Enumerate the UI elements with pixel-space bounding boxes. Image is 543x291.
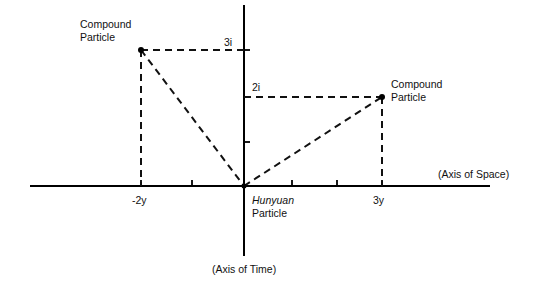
vector-line (141, 50, 244, 186)
left-particle-label-1: Compound (80, 18, 132, 30)
left-compound-particle-point (138, 47, 144, 53)
right-particle-label-2: Particle (391, 91, 426, 103)
right-particle-label-1: Compound (391, 78, 443, 90)
spacetime-diagram: Compound Particle Compound Particle 3i 2… (0, 0, 543, 291)
x-tick-label-3y: 3y (373, 194, 385, 206)
right-compound-particle-point (379, 94, 385, 100)
vector-line (244, 97, 382, 186)
y-tick-label-2i: 2i (252, 81, 260, 93)
space-axis-label: (Axis of Space) (438, 168, 509, 180)
time-axis-label: (Axis of Time) (212, 263, 276, 275)
x-tick-label-neg2y: -2y (132, 194, 147, 206)
left-particle-label-2: Particle (80, 31, 115, 43)
origin-label-2: Particle (252, 207, 287, 219)
origin-label-1: Hunyuan (252, 194, 294, 206)
origin-point (242, 184, 247, 189)
y-tick-label-3i: 3i (224, 36, 232, 48)
